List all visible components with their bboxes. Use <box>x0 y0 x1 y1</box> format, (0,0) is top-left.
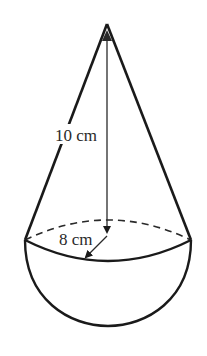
base-rim <box>25 220 191 261</box>
rim-back-dashed <box>25 220 191 240</box>
cone-right-edge <box>107 24 191 240</box>
hemisphere <box>25 240 191 326</box>
height-label: 10 cm <box>55 126 97 145</box>
cone <box>25 24 191 240</box>
cone-hemisphere-diagram: 10 cm 8 cm <box>0 0 207 356</box>
radius-label: 8 cm <box>59 230 93 249</box>
rim-front-solid <box>25 240 191 261</box>
